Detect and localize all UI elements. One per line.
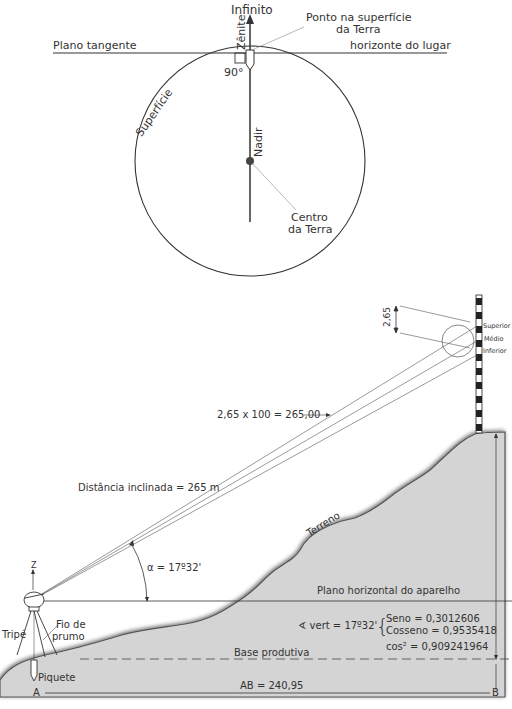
stadia-rod [476, 295, 482, 433]
medio-label: Médio [484, 336, 504, 343]
leader-centro [252, 163, 296, 210]
z-label: Z [31, 562, 36, 570]
cos2-label: cos² = 0,909241964 [386, 642, 488, 652]
earth-diagram [53, 14, 447, 276]
leader-ponto [252, 27, 304, 50]
alpha-label: α = 17º32' [147, 563, 201, 573]
plano-horizontal-label: Plano horizontal do aparelho [317, 586, 460, 596]
cosseno-label: Cosseno = 0,9535418 [386, 626, 497, 636]
angle-vert-label: ∢ vert = 17º32' [298, 621, 377, 631]
point-a-label: A [33, 688, 40, 698]
zenite-label: Zênite [236, 15, 247, 50]
tripe-label: Tripé [2, 630, 26, 640]
nadir-label: Nadir [253, 127, 264, 157]
stadia-reading-label: 2,65 [383, 307, 392, 327]
inferior-label: Inferior [483, 348, 506, 355]
angle-90-label: 90° [224, 67, 244, 78]
base-produtiva-label: Base produtiva [234, 648, 309, 658]
surface-point-marker [246, 50, 254, 70]
seno-label: Seno = 0,3012606 [386, 614, 480, 624]
superior-label: Superior [483, 323, 511, 330]
distance-calc-label: 2,65 x 100 = 265,00 [217, 410, 320, 420]
right-angle-marker [235, 53, 245, 63]
dimension-265 [394, 306, 398, 333]
distancia-inclinada-label: Distância inclinada = 265 m [78, 483, 220, 493]
fio-de-label-2: prumo [52, 632, 85, 642]
alpha-arc [131, 543, 147, 601]
centro-label-2: da Terra [288, 224, 332, 235]
horizonte-label: horizonte do lugar [350, 40, 451, 51]
fio-de-label-1: Fio de [56, 620, 86, 630]
piquete-label: Piquete [38, 673, 76, 683]
ponto-superficie-label-2: da Terra [336, 24, 380, 35]
plano-tangente-label: Plano tangente [53, 40, 136, 51]
diagram-canvas [0, 0, 512, 709]
ab-label: AB = 240,95 [240, 681, 303, 691]
point-b-label: B [492, 688, 499, 698]
ponto-superficie-label-1: Ponto na superfície [306, 12, 411, 23]
centro-label-1: Centro [291, 212, 328, 223]
